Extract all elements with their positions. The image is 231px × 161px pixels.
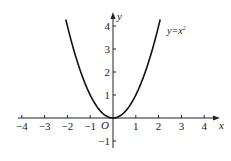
y-tick-label: 4 bbox=[105, 20, 111, 32]
chart: −4−3−2−11234 −11234 x y O y=x2 bbox=[0, 0, 231, 161]
y-tick-label: 3 bbox=[105, 43, 111, 55]
y-axis-arrow-icon bbox=[111, 12, 116, 19]
x-tick-label: 3 bbox=[179, 120, 185, 132]
y-tick-label: 1 bbox=[105, 89, 111, 101]
x-tick-label: 2 bbox=[156, 120, 162, 132]
y-tick-label: 2 bbox=[105, 66, 111, 78]
function-label: y=x2 bbox=[166, 25, 186, 36]
x-tick-label: 4 bbox=[201, 120, 207, 132]
x-tick-label: −3 bbox=[39, 120, 51, 132]
x-axis-label: x bbox=[218, 119, 224, 131]
x-tick-label: −4 bbox=[16, 120, 28, 132]
x-tick-label: −2 bbox=[62, 120, 74, 132]
x-tick-label: −1 bbox=[84, 120, 96, 132]
y-axis-label: y bbox=[116, 10, 122, 22]
y-tick-label: −1 bbox=[98, 135, 110, 147]
x-tick-label: 1 bbox=[133, 120, 139, 132]
origin-label: O bbox=[101, 119, 109, 131]
